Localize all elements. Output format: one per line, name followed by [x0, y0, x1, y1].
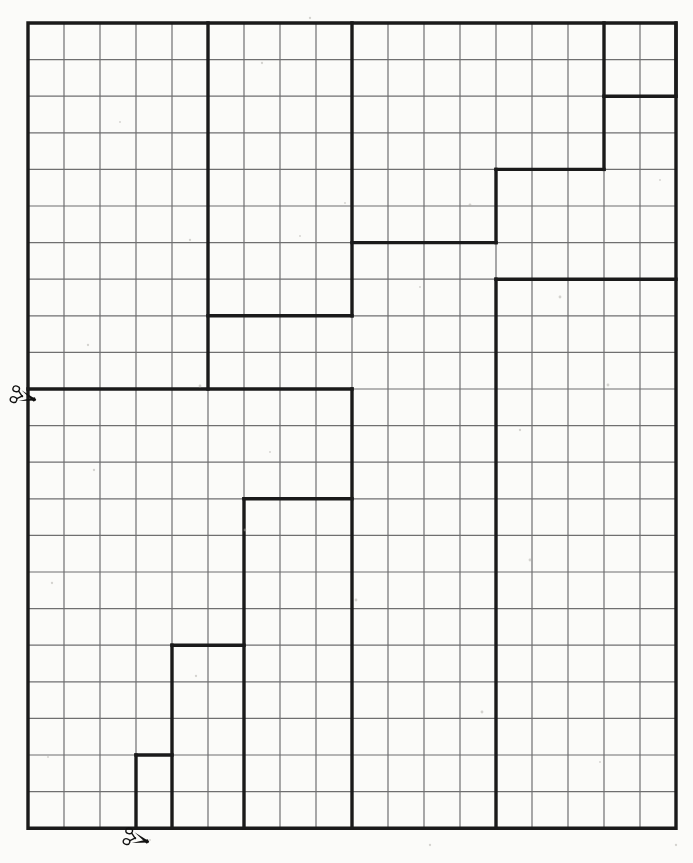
paper-speck — [469, 204, 472, 207]
paper-speck — [149, 839, 151, 841]
paper-speck — [355, 599, 358, 602]
paper-speck — [639, 469, 641, 471]
paper-speck — [675, 844, 677, 846]
paper-speck — [607, 384, 610, 387]
scissors-handle-lower — [10, 396, 18, 403]
paper-speck — [87, 344, 89, 346]
paper-speck — [195, 675, 197, 677]
paper-speck — [269, 451, 271, 453]
paper-speck — [93, 469, 95, 471]
scissors-handle-lower — [123, 838, 131, 845]
paper-speck — [519, 429, 521, 431]
paper-speck — [529, 559, 532, 562]
scissors-icon-bottom — [123, 827, 152, 849]
paper-speck — [199, 385, 202, 388]
paper-speck — [419, 286, 421, 288]
paper-speck — [429, 844, 431, 846]
paper-speck — [47, 756, 49, 758]
scissors-marks — [10, 385, 152, 849]
paper-speck — [559, 296, 562, 299]
paper-speck — [119, 121, 121, 123]
paper-speck — [261, 62, 263, 64]
paper-speck — [344, 202, 346, 204]
paper-speck — [51, 582, 53, 584]
paper-speckles — [47, 17, 677, 846]
paper-speck — [599, 761, 601, 763]
grid-canvas — [0, 0, 693, 863]
paper-speck — [244, 529, 247, 532]
paper-speck — [299, 235, 301, 237]
paper-speck — [189, 239, 191, 241]
worksheet-sheet — [0, 0, 693, 863]
paper-speck — [659, 179, 661, 181]
paper-speck — [309, 17, 311, 19]
paper-speck — [481, 711, 484, 714]
